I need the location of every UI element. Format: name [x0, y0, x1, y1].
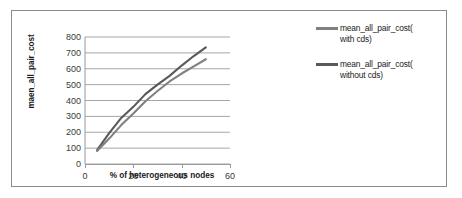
y-tick-label: 300: [66, 111, 81, 121]
y-tick-label: 0: [76, 159, 81, 169]
legend-color-swatch: [316, 63, 338, 66]
plot-svg: [85, 37, 230, 164]
plot-area: 01002003004005006007008000204060: [85, 37, 230, 164]
chart-legend: mean_all_pair_cost( with cds)mean_all_pa…: [316, 23, 444, 95]
legend-color-swatch: [316, 27, 338, 30]
series-line-1: [97, 59, 206, 151]
y-tick-label: 200: [66, 127, 81, 137]
chart-frame: maen_all_pair_cost 010020030040050060070…: [11, 10, 447, 187]
y-tick-label: 800: [66, 32, 81, 42]
x-axis-line: [85, 164, 230, 165]
x-tick-mark: [230, 164, 231, 168]
line-chart: maen_all_pair_cost 010020030040050060070…: [12, 11, 312, 186]
y-tick-label: 100: [66, 143, 81, 153]
y-tick-label: 500: [66, 80, 81, 90]
legend-item[interactable]: mean_all_pair_cost( with cds): [316, 23, 444, 45]
x-axis-title: % of heterogeneous nodes: [52, 171, 272, 180]
y-tick-label: 600: [66, 64, 81, 74]
y-axis-title: maen_all_pair_cost: [27, 12, 36, 132]
y-tick-label: 400: [66, 96, 81, 106]
legend-item-label: mean_all_pair_cost( without cds): [340, 59, 413, 81]
legend-item-label: mean_all_pair_cost( with cds): [340, 23, 413, 45]
legend-item[interactable]: mean_all_pair_cost( without cds): [316, 59, 444, 81]
y-tick-label: 700: [66, 48, 81, 58]
